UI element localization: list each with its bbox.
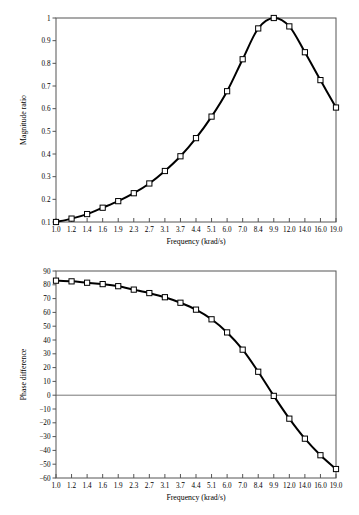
magnitude-data-marker (147, 181, 152, 186)
phase-ytick-label: 10 (43, 378, 51, 386)
magnitude-data-marker (271, 15, 276, 20)
magnitude-data-marker (240, 57, 245, 62)
phase-ytick-label: 0 (47, 392, 51, 400)
phase-data-marker (131, 287, 136, 292)
phase-xtick-label: 1.2 (67, 482, 76, 490)
phase-ytick-label: −20 (39, 419, 51, 427)
magnitude-plot-svg: 0.10.20.30.40.50.60.70.80.911.01.21.41.6… (0, 0, 359, 258)
phase-ytick-label: −10 (39, 406, 51, 414)
phase-data-marker (178, 300, 183, 305)
phase-ytick-label: −30 (39, 433, 51, 441)
magnitude-xtick-label: 1.0 (52, 226, 61, 234)
phase-xtick-label: 3.1 (160, 482, 169, 490)
phase-data-marker (147, 290, 152, 295)
magnitude-data-marker (318, 78, 323, 83)
magnitude-ytick-label: 0.8 (42, 60, 51, 68)
phase-xtick-label: 3.7 (176, 482, 185, 490)
magnitude-xtick-label: 19.0 (330, 226, 343, 234)
phase-ytick-label: 70 (43, 295, 51, 303)
magnitude-data-marker (225, 89, 230, 94)
magnitude-xtick-label: 1.2 (67, 226, 76, 234)
phase-data-marker (302, 436, 307, 441)
magnitude-xtick-label: 3.1 (160, 226, 169, 234)
magnitude-data-marker (116, 199, 121, 204)
magnitude-plot-frame (56, 18, 336, 222)
magnitude-data-marker (69, 216, 74, 221)
phase-ytick-label: 30 (43, 350, 51, 358)
magnitude-xtick-label: 6.0 (223, 226, 232, 234)
phase-plot-svg: 9080706050403020100−10−20−30−40−50−601.0… (0, 258, 359, 515)
magnitude-ytick-label: 0.4 (42, 151, 51, 159)
magnitude-data-marker (256, 26, 261, 31)
phase-data-marker (225, 330, 230, 335)
magnitude-data-marker (85, 211, 90, 216)
phase-data-marker (287, 416, 292, 421)
magnitude-data-marker (131, 191, 136, 196)
magnitude-xtick-label: 8.4 (254, 226, 263, 234)
magnitude-ytick-label: 0.6 (42, 105, 51, 113)
magnitude-xaxis-title: Frequency (krad/s) (166, 237, 226, 246)
phase-xtick-label: 16.0 (314, 482, 327, 490)
magnitude-data-marker (162, 168, 167, 173)
phase-ytick-label: 50 (43, 323, 51, 331)
phase-xtick-label: 1.6 (98, 482, 107, 490)
magnitude-ytick-label: 0.2 (42, 196, 51, 204)
phase-data-marker (271, 393, 276, 398)
magnitude-xtick-label: 1.9 (114, 226, 123, 234)
phase-xtick-label: 2.7 (145, 482, 154, 490)
phase-xaxis-title: Frequency (krad/s) (166, 493, 226, 502)
magnitude-data-marker (209, 114, 214, 119)
magnitude-data-marker (333, 105, 338, 110)
phase-xtick-label: 1.4 (83, 482, 92, 490)
phase-data-marker (318, 453, 323, 458)
magnitude-ytick-label: 0.9 (42, 37, 51, 45)
magnitude-data-marker (287, 24, 292, 29)
phase-xtick-label: 12.0 (283, 482, 296, 490)
magnitude-data-marker (100, 205, 105, 210)
phase-data-marker (209, 317, 214, 322)
phase-ytick-label: 40 (43, 337, 51, 345)
phase-xtick-label: 8.4 (254, 482, 263, 490)
magnitude-xtick-label: 9.9 (269, 226, 278, 234)
phase-data-marker (162, 295, 167, 300)
phase-ytick-label: 20 (43, 364, 51, 372)
phase-xtick-label: 5.1 (207, 482, 216, 490)
phase-ytick-label: 60 (43, 309, 51, 317)
phase-xtick-label: 2.3 (129, 482, 138, 490)
magnitude-xtick-label: 2.3 (129, 226, 138, 234)
phase-xtick-label: 1.9 (114, 482, 123, 490)
magnitude-xtick-label: 1.4 (83, 226, 92, 234)
phase-plot-frame (56, 271, 336, 478)
phase-ytick-label: 80 (43, 281, 51, 289)
magnitude-xtick-label: 5.1 (207, 226, 216, 234)
magnitude-xtick-label: 1.6 (98, 226, 107, 234)
magnitude-xtick-label: 3.7 (176, 226, 185, 234)
phase-data-marker (333, 466, 338, 471)
phase-data-marker (85, 280, 90, 285)
phase-ytick-label: −50 (39, 461, 51, 469)
phase-data-marker (69, 279, 74, 284)
phase-xtick-label: 7.0 (238, 482, 247, 490)
phase-difference-chart: 9080706050403020100−10−20−30−40−50−601.0… (0, 258, 359, 515)
magnitude-ytick-label: 0.1 (42, 219, 51, 227)
phase-xtick-label: 6.0 (223, 482, 232, 490)
phase-xtick-label: 14.0 (299, 482, 312, 490)
phase-xtick-label: 19.0 (330, 482, 343, 490)
phase-ytick-label: −60 (39, 475, 51, 483)
magnitude-ytick-label: 0.5 (42, 128, 51, 136)
magnitude-data-curve (56, 18, 336, 222)
phase-ytick-label: −40 (39, 447, 51, 455)
phase-xtick-label: 9.9 (269, 482, 278, 490)
magnitude-ratio-chart: 0.10.20.30.40.50.60.70.80.911.01.21.41.6… (0, 0, 359, 258)
magnitude-ytick-label: 1 (47, 15, 51, 23)
magnitude-yaxis-title: Magnitude ratio (19, 95, 28, 145)
magnitude-xtick-label: 4.4 (192, 226, 201, 234)
phase-data-marker (53, 278, 58, 283)
magnitude-xtick-label: 7.0 (238, 226, 247, 234)
phase-data-marker (240, 347, 245, 352)
phase-xtick-label: 1.0 (52, 482, 61, 490)
magnitude-xtick-label: 14.0 (299, 226, 312, 234)
magnitude-ytick-label: 0.3 (42, 173, 51, 181)
magnitude-xtick-label: 12.0 (283, 226, 296, 234)
magnitude-xtick-label: 16.0 (314, 226, 327, 234)
